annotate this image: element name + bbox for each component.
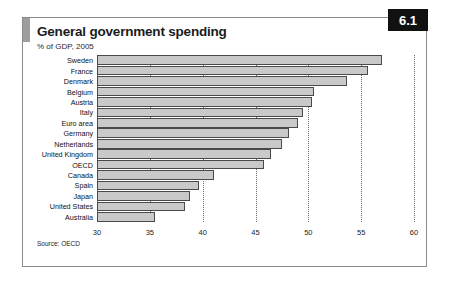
page-title: General government spending [37, 24, 227, 39]
bar-canada [97, 170, 214, 180]
bar-label-spain: Spain [75, 181, 93, 190]
bar-label-canada: Canada [68, 171, 93, 180]
x-tick-40: 40 [198, 228, 206, 237]
chart-subtitle: % of GDP, 2005 [37, 42, 94, 51]
x-tick-35: 35 [146, 228, 154, 237]
bar-row: Japan [97, 191, 414, 201]
bar-row: Canada [97, 170, 414, 180]
bar-label-united-states: United States [50, 202, 93, 211]
bar-austria [97, 97, 312, 107]
bar-row: Spain [97, 181, 414, 191]
bar-label-belgium: Belgium [67, 87, 93, 96]
chart-card: General government spending % of GDP, 20… [22, 17, 427, 267]
bar-label-denmark: Denmark [64, 77, 93, 86]
bar-row: Netherlands [97, 139, 414, 149]
bar-label-austria: Austria [71, 97, 93, 106]
bar-row: OECD [97, 160, 414, 170]
bar-label-netherlands: Netherlands [54, 139, 93, 148]
bar-row: France [97, 66, 414, 76]
bar-sweden [97, 55, 382, 65]
bar-row: United States [97, 202, 414, 212]
bar-label-france: France [71, 66, 93, 75]
bar-netherlands [97, 139, 282, 149]
bar-label-euro-area: Euro area [61, 118, 93, 127]
bar-france [97, 66, 368, 76]
bar-spain [97, 181, 199, 191]
bar-japan [97, 191, 190, 201]
bar-label-oecd: OECD [72, 160, 93, 169]
bar-denmark [97, 76, 347, 86]
chart-plot-area: SwedenFranceDenmarkBelgiumAustriaItalyEu… [97, 55, 414, 222]
bar-label-italy: Italy [80, 108, 93, 117]
bar-belgium [97, 87, 314, 97]
bar-euro-area [97, 118, 298, 128]
bar-row: Austria [97, 97, 414, 107]
bar-oecd [97, 160, 264, 170]
bar-germany [97, 128, 289, 138]
x-tick-50: 50 [304, 228, 312, 237]
gridline-60 [414, 55, 416, 222]
x-tick-55: 55 [357, 228, 365, 237]
bar-row: Denmark [97, 76, 414, 86]
source-note: Source: OECD [37, 240, 80, 247]
bar-row: Sweden [97, 55, 414, 65]
bar-rows: SwedenFranceDenmarkBelgiumAustriaItalyEu… [97, 55, 414, 222]
bar-row: Belgium [97, 87, 414, 97]
bar-label-japan: Japan [73, 191, 93, 200]
bar-row: Italy [97, 108, 414, 118]
x-tick-60: 60 [410, 228, 418, 237]
bar-label-germany: Germany [63, 129, 93, 138]
bar-label-united-kingdom: United Kingdom [42, 150, 93, 159]
bar-united-states [97, 202, 185, 212]
bar-row: Euro area [97, 118, 414, 128]
bar-italy [97, 108, 303, 118]
figure-number-badge: 6.1 [388, 9, 428, 31]
x-tick-45: 45 [251, 228, 259, 237]
x-tick-30: 30 [93, 228, 101, 237]
bar-australia [97, 212, 155, 222]
bar-row: Germany [97, 128, 414, 138]
title-accent-bar [23, 18, 30, 42]
x-axis-ticklabels: 30354045505560 [97, 228, 414, 242]
bar-row: Australia [97, 212, 414, 222]
bar-label-sweden: Sweden [67, 56, 93, 65]
bar-label-australia: Australia [65, 212, 93, 221]
bar-united-kingdom [97, 149, 271, 159]
bar-row: United Kingdom [97, 149, 414, 159]
